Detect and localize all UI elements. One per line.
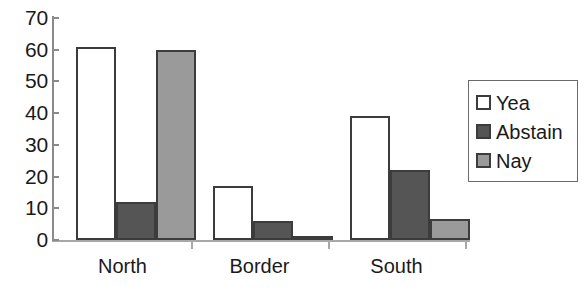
legend-item-abstain: Abstain: [476, 117, 577, 146]
legend: Yea Abstain Nay: [468, 80, 578, 182]
category-label-north: North: [54, 255, 191, 277]
category-label-border: Border: [191, 255, 328, 277]
bar-chart-figure: 010203040506070 NorthBorderSouth Yea Abs…: [0, 0, 586, 296]
legend-label-yea: Yea: [496, 93, 530, 113]
legend-swatch-nay: [476, 153, 491, 168]
legend-label-abstain: Abstain: [496, 122, 563, 142]
legend-item-nay: Nay: [476, 146, 577, 175]
legend-swatch-yea: [476, 95, 491, 110]
legend-label-nay: Nay: [496, 151, 532, 171]
legend-item-yea: Yea: [476, 88, 577, 117]
category-label-south: South: [328, 255, 465, 277]
legend-swatch-abstain: [476, 124, 491, 139]
